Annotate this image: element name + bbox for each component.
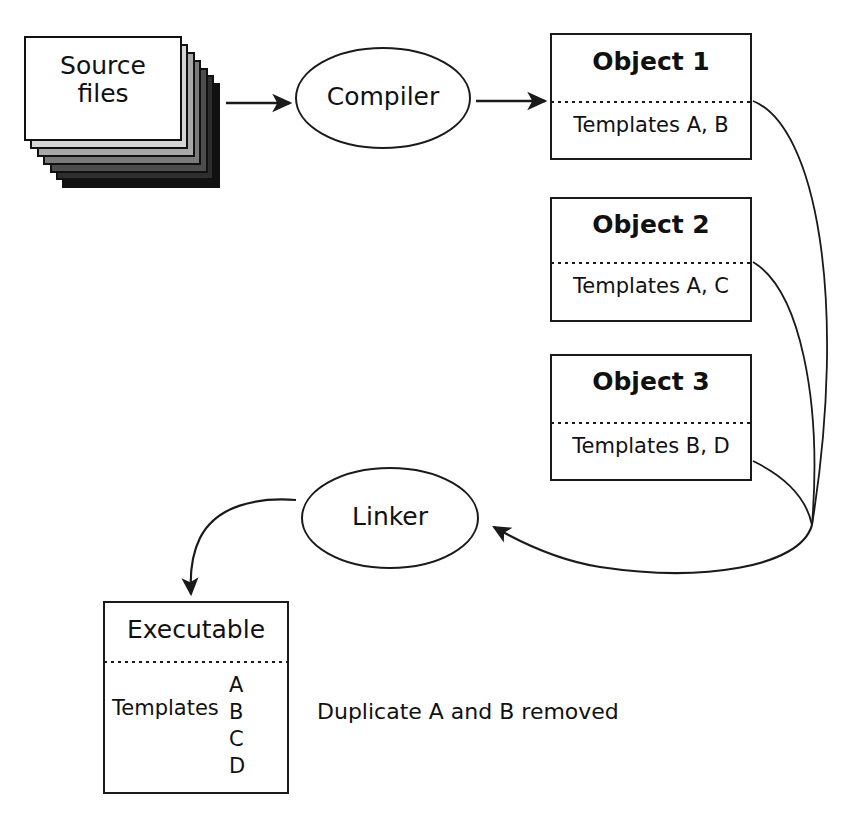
template-letter-a: A xyxy=(229,672,263,699)
template-letter-b: B xyxy=(229,699,263,726)
object-1-title: Object 1 xyxy=(551,47,751,76)
curve-object-2-to-linker xyxy=(753,262,814,525)
template-letter-d: D xyxy=(229,753,263,780)
arrow-objects-to-linker xyxy=(494,525,812,573)
template-letter-c: C xyxy=(229,726,263,753)
source-files-label: Source files xyxy=(24,52,182,108)
curve-object-3-to-linker xyxy=(753,461,812,525)
executable-templates-label: Templates xyxy=(112,696,222,720)
object-2-title: Object 2 xyxy=(551,210,751,239)
duplicate-removed-note: Duplicate A and B removed xyxy=(317,699,677,724)
arrow-linker-to-executable xyxy=(191,499,296,594)
diagram-canvas: Source files Compiler Linker Object 1 Te… xyxy=(0,0,865,835)
compiler-label: Compiler xyxy=(296,83,470,111)
linker-label: Linker xyxy=(302,503,478,531)
object-1-templates: Templates A, B xyxy=(551,113,751,137)
object-2-templates: Templates A, C xyxy=(551,274,751,298)
executable-template-letters: A B C D xyxy=(229,672,263,780)
executable-title: Executable xyxy=(104,615,288,644)
object-3-templates: Templates B, D xyxy=(551,434,751,458)
object-3-title: Object 3 xyxy=(551,367,751,396)
